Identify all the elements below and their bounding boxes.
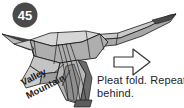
origami-diagram: Valley Mountain 45 Pleat fold. Repeat be… <box>0 0 184 108</box>
origami-instruction-page: Valley Mountain 45 Pleat fold. Repeat be… <box>0 0 184 108</box>
hind-leg-foot <box>74 100 92 107</box>
caption-line-1: Pleat fold. Repeat <box>97 74 184 86</box>
step-number-text: 45 <box>18 8 32 23</box>
right-arrow-icon <box>114 49 150 75</box>
caption-line-2: behind. <box>97 87 134 99</box>
step-number-badge: 45 <box>13 3 38 28</box>
